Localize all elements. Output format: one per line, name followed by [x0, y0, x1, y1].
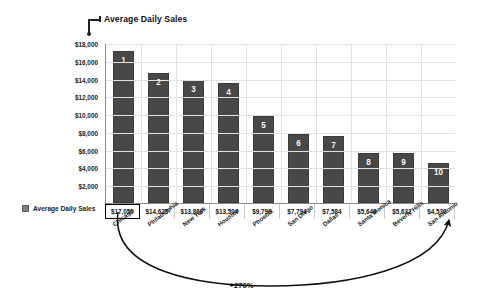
y-axis-tick-label: $10,000 — [75, 112, 98, 119]
chart-title-block: Average Daily Sales — [88, 15, 187, 38]
y-axis-tick-label: $6,000 — [78, 147, 98, 154]
bar[interactable]: 4 — [218, 83, 240, 203]
bar-rank-label: 5 — [261, 122, 266, 202]
bar[interactable]: 5 — [253, 116, 275, 203]
chart-container: Average Daily Sales $18,000$16,000$14,00… — [0, 0, 483, 305]
gridline-vertical — [421, 44, 422, 203]
page-title: Average Daily Sales — [104, 14, 187, 24]
gridline-vertical — [281, 44, 282, 203]
gridline-vertical — [386, 44, 387, 203]
callout-leader-icon — [88, 16, 102, 38]
plot-wrapper: 12345678910 — [105, 44, 455, 204]
y-axis-tick-label: $14,000 — [75, 76, 98, 83]
gridline-vertical — [141, 44, 142, 203]
y-axis-tick-label: $12,000 — [75, 94, 98, 101]
growth-arc — [0, 206, 483, 305]
bar-rank-label: 9 — [401, 159, 406, 202]
bar[interactable]: 9 — [393, 153, 415, 203]
bar[interactable]: 8 — [358, 153, 380, 203]
gridline-vertical — [316, 44, 317, 203]
bar-rank-label: 6 — [296, 140, 301, 202]
y-axis-tick-label: $4,000 — [78, 165, 98, 172]
gridline-vertical — [246, 44, 247, 203]
bar-rank-label: 3 — [191, 86, 196, 202]
bar[interactable]: 1 — [113, 51, 135, 203]
y-axis-tick-label: $16,000 — [75, 58, 98, 65]
gridline-vertical — [351, 44, 352, 203]
y-axis-tick-label: $2,000 — [78, 183, 98, 190]
bar-rank-label: 4 — [226, 89, 231, 202]
y-axis-labels: $18,000$16,000$14,000$12,000$10,000$8,00… — [46, 44, 102, 204]
gridline-vertical — [211, 44, 212, 203]
plot-area: 12345678910 — [105, 44, 455, 204]
y-axis-tick-label: $8,000 — [78, 129, 98, 136]
y-axis-tick-label: $18,000 — [75, 41, 98, 48]
gridline-vertical — [176, 44, 177, 203]
bar-rank-label: 8 — [366, 159, 371, 202]
bar[interactable]: 2 — [148, 73, 170, 203]
growth-percent-label: +276% — [0, 281, 483, 290]
